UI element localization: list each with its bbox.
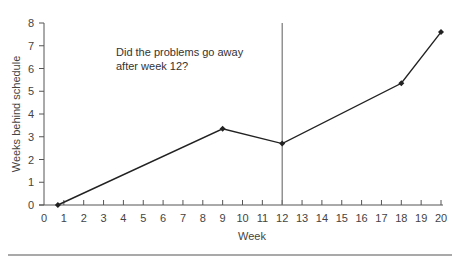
- data-point-marker: [220, 126, 226, 132]
- y-tick-label: 3: [28, 131, 34, 143]
- line-chart: 012345678 012345678910111213141516171819…: [0, 0, 462, 257]
- x-tick-label: 19: [415, 212, 427, 224]
- data-point-marker: [55, 202, 61, 208]
- annotation-text: Did the problems go awayafter week 12?: [116, 46, 244, 72]
- x-tick-label: 10: [236, 212, 248, 224]
- y-tick-label: 6: [28, 63, 34, 75]
- x-tick-label: 8: [200, 212, 206, 224]
- x-tick-label: 0: [41, 212, 47, 224]
- y-axis-title: Weeks behind schedule: [10, 56, 22, 173]
- x-axis: 01234567891011121314151617181920: [39, 200, 447, 224]
- annotations: Did the problems go awayafter week 12?: [116, 46, 244, 72]
- x-tick-label: 3: [100, 212, 106, 224]
- y-tick-label: 5: [28, 85, 34, 97]
- x-tick-label: 9: [220, 212, 226, 224]
- series-line: [58, 32, 441, 205]
- x-tick-label: 11: [257, 212, 268, 224]
- x-tick-label: 1: [61, 212, 67, 224]
- y-tick-label: 1: [28, 176, 34, 188]
- y-axis: 012345678: [28, 17, 44, 211]
- x-tick-label: 14: [316, 212, 328, 224]
- x-tick-label: 13: [296, 212, 308, 224]
- y-tick-label: 8: [28, 17, 34, 29]
- y-tick-label: 2: [28, 154, 34, 166]
- y-tick-label: 7: [28, 40, 34, 52]
- data-series: [55, 29, 444, 208]
- x-axis-title: Week: [238, 230, 266, 242]
- y-tick-label: 4: [28, 108, 34, 120]
- data-point-marker: [279, 141, 285, 147]
- x-tick-label: 18: [395, 212, 407, 224]
- x-tick-label: 5: [140, 212, 146, 224]
- x-tick-label: 6: [160, 212, 166, 224]
- x-tick-label: 12: [276, 212, 288, 224]
- x-tick-label: 20: [435, 212, 447, 224]
- x-tick-label: 2: [81, 212, 87, 224]
- x-tick-label: 15: [336, 212, 348, 224]
- x-tick-label: 4: [120, 212, 126, 224]
- x-tick-label: 17: [375, 212, 387, 224]
- x-tick-label: 7: [180, 212, 186, 224]
- x-tick-label: 16: [355, 212, 367, 224]
- y-tick-label: 0: [28, 199, 34, 211]
